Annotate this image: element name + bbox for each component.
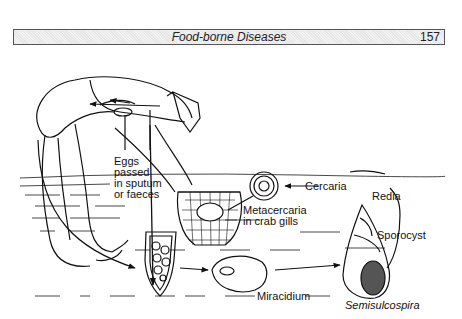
label-redia: Redia bbox=[372, 190, 401, 202]
life-cycle-diagram bbox=[0, 0, 462, 319]
label-eggs-4: or faeces bbox=[114, 188, 159, 200]
crab-basket-icon bbox=[178, 192, 242, 245]
label-sporocyst: Sporocyst bbox=[377, 229, 426, 241]
label-metacercaria-2: in crab gills bbox=[243, 215, 298, 227]
egg-icon bbox=[145, 232, 176, 296]
redia-to-cercaria bbox=[350, 171, 385, 174]
label-semisulcospira: Semisulcospira bbox=[345, 299, 420, 311]
label-miracidium: Miracidium bbox=[257, 290, 310, 302]
snail-shell-icon bbox=[343, 205, 389, 298]
label-cercaria: Cercaria bbox=[305, 180, 347, 192]
miracidium-icon bbox=[212, 256, 267, 292]
